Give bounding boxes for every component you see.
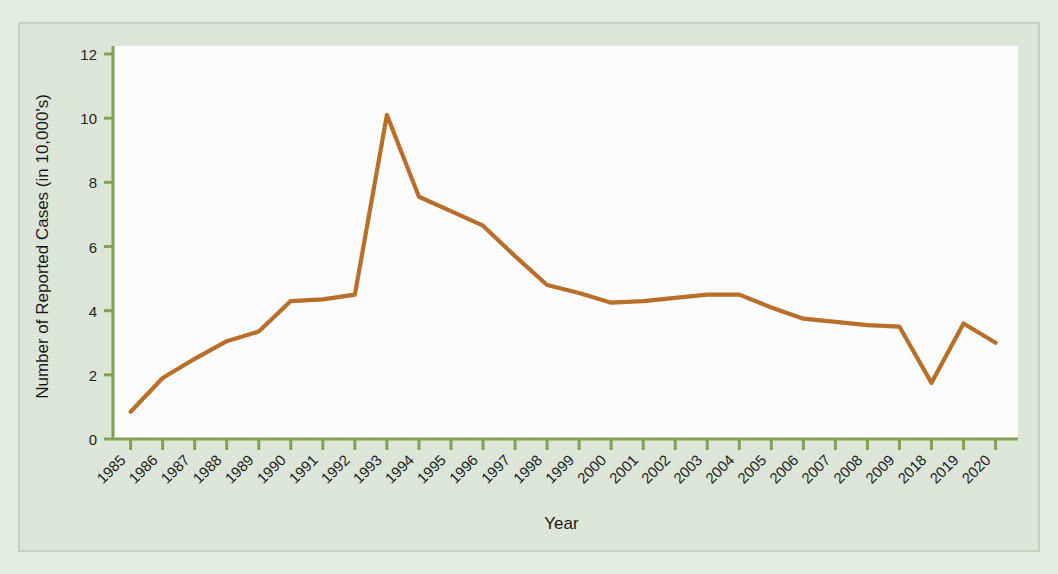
x-tick-label: 1998 — [510, 451, 546, 487]
x-tick-label: 2008 — [830, 451, 866, 487]
y-tick-label: 12 — [80, 46, 97, 63]
y-axis-title: Number of Reported Cases (in 10,000's) — [33, 94, 52, 399]
x-tick-label: 1999 — [542, 451, 578, 487]
x-tick-label: 2018 — [894, 451, 930, 487]
y-tick-label: 8 — [89, 174, 97, 191]
x-tick-label: 1990 — [253, 451, 289, 487]
x-tick-label: 1996 — [446, 451, 482, 487]
x-tick-label: 1986 — [125, 451, 161, 487]
x-axis-title: Year — [544, 514, 579, 533]
x-tick-label: 2007 — [798, 451, 834, 487]
x-tick-label: 1994 — [381, 451, 417, 487]
x-tick-label: 2009 — [862, 451, 898, 487]
line-chart: 0246810121985198619871988198919901991199… — [20, 24, 1038, 550]
x-tick-label: 2006 — [766, 451, 802, 487]
y-tick-label: 2 — [89, 367, 97, 384]
x-tick-label: 1997 — [478, 451, 514, 487]
chart-figure: 0246810121985198619871988198919901991199… — [18, 22, 1040, 552]
x-tick-label: 1989 — [221, 451, 257, 487]
x-tick-label: 2001 — [606, 451, 642, 487]
x-tick-label: 2000 — [574, 451, 610, 487]
x-tick-label: 2003 — [670, 451, 706, 487]
y-tick-label: 6 — [89, 239, 97, 256]
x-tick-label: 2004 — [702, 451, 738, 487]
y-tick-label: 10 — [80, 110, 97, 127]
x-tick-label: 2020 — [958, 451, 994, 487]
y-tick-label: 0 — [89, 431, 97, 448]
x-tick-label: 1992 — [317, 451, 353, 487]
x-tick-label: 1991 — [285, 451, 321, 487]
x-tick-label: 1988 — [189, 451, 225, 487]
x-tick-label: 1987 — [157, 451, 193, 487]
x-tick-label: 1995 — [413, 451, 449, 487]
x-tick-label: 1993 — [349, 451, 385, 487]
x-tick-label: 1985 — [93, 451, 129, 487]
plot-area — [113, 46, 1018, 439]
x-tick-label: 2019 — [926, 451, 962, 487]
x-tick-label: 2002 — [638, 451, 674, 487]
x-tick-label: 2005 — [734, 451, 770, 487]
y-tick-label: 4 — [89, 303, 97, 320]
